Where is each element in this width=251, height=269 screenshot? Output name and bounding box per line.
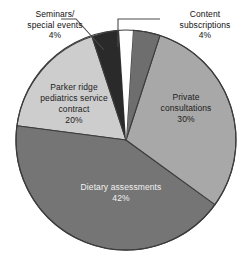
label-percent: 30% <box>145 114 227 125</box>
slice-label-parker-ridge: Parker ridge pediatrics service contract… <box>22 82 126 126</box>
label-line-1: Dietary assessments <box>62 182 180 193</box>
label-line-1: Content <box>163 9 247 20</box>
slice-label-dietary-assessments: Dietary assessments 42% <box>62 182 180 204</box>
slice-label-seminars-special-events: Seminars/ special events 4% <box>12 9 98 41</box>
label-percent: 42% <box>62 193 180 204</box>
label-percent: 4% <box>12 30 98 41</box>
label-line-1: Seminars/ <box>12 9 98 20</box>
label-line-2: pediatrics service <box>22 93 126 104</box>
slice-label-content-subscriptions: Content subscriptions 4% <box>163 9 247 41</box>
label-line-1: Parker ridge <box>22 82 126 93</box>
slice-label-private-consultations: Private consultations 30% <box>145 92 227 125</box>
pie-chart: Seminars/ special events 4% Content subs… <box>0 0 251 269</box>
label-percent: 4% <box>163 30 247 41</box>
label-line-2: subscriptions <box>163 20 247 31</box>
label-line-1: Private <box>145 92 227 103</box>
label-line-3: contract <box>22 104 126 115</box>
label-line-2: special events <box>12 20 98 31</box>
label-line-2: consultations <box>145 103 227 114</box>
label-percent: 20% <box>22 115 126 126</box>
